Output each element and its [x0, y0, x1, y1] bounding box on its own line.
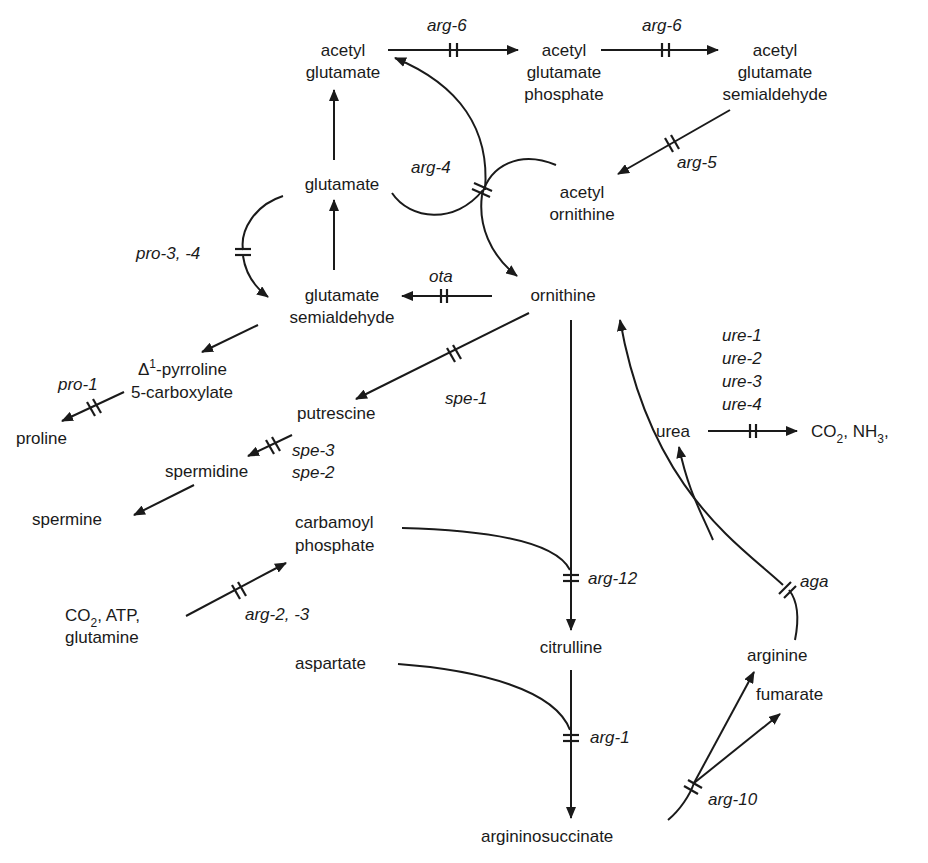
reaction-arg6-first	[388, 43, 518, 57]
reaction-pro1	[62, 392, 124, 421]
label-line: carbamoyl	[295, 513, 373, 532]
metabolite-fumarate: fumarate	[756, 685, 823, 704]
label-line: glutamate	[306, 63, 381, 82]
reaction-aga	[620, 320, 797, 640]
gene-arg6-second: arg-6	[642, 16, 682, 35]
gene-ota: ota	[429, 267, 453, 286]
gene-ure2: ure-2	[722, 349, 762, 368]
label-line: 5-carboxylate	[131, 383, 233, 402]
metabolite-spermidine: spermidine	[165, 462, 248, 481]
label-line: glutamate	[305, 286, 380, 305]
reaction-gsa-to-p5c	[202, 325, 258, 352]
reaction-arg6-second	[601, 43, 718, 57]
gene-ure1: ure-1	[722, 326, 762, 345]
pathway-diagram: acetyl glutamate acetyl glutamate phosph…	[0, 0, 928, 863]
gene-arg4: arg-4	[411, 158, 451, 177]
label-text: , NH	[843, 422, 877, 441]
metabolite-ornithine: ornithine	[530, 286, 595, 305]
delta-symbol: Δ	[138, 360, 149, 379]
metabolite-glutamate: glutamate	[305, 175, 380, 194]
label-line: glutamate	[738, 63, 813, 82]
gene-ure3: ure-3	[722, 372, 762, 391]
gene-arg10: arg-10	[708, 790, 758, 809]
gene-pro3-4: pro-3, -4	[135, 244, 200, 263]
reaction-ure	[708, 424, 797, 438]
metabolite-acetyl-glutamate-semialdehyde: acetyl glutamate semialdehyde	[723, 41, 828, 104]
metabolite-urea: urea	[656, 422, 691, 441]
label-line: Δ1-pyrroline	[138, 357, 227, 379]
label-line: phosphate	[295, 536, 374, 555]
gene-ure4: ure-4	[722, 395, 762, 414]
metabolite-putrescine: putrescine	[297, 404, 375, 423]
gene-arg5: arg-5	[677, 153, 717, 172]
label-line: phosphate	[524, 85, 603, 104]
label-text: CO	[65, 606, 91, 625]
reaction-ota	[402, 289, 492, 303]
label-line: acetyl	[542, 41, 586, 60]
label-text: -pyrroline	[156, 360, 227, 379]
metabolite-citrulline: citrulline	[540, 638, 602, 657]
metabolite-co2-nh3: CO2, NH3,	[811, 422, 889, 446]
gene-spe2: spe-2	[292, 463, 335, 482]
label-line: glutamine	[65, 628, 139, 647]
gene-arg6-first: arg-6	[427, 16, 467, 35]
gene-spe1: spe-1	[445, 389, 488, 408]
gene-aga: aga	[800, 572, 828, 591]
gene-pro1: pro-1	[57, 375, 98, 394]
label-text: , ATP,	[97, 606, 140, 625]
label-line: semialdehyde	[290, 308, 395, 327]
gene-spe3: spe-3	[292, 441, 335, 460]
metabolite-aspartate: aspartate	[295, 654, 366, 673]
label-line: glutamate	[527, 63, 602, 82]
label-line: CO2, ATP,	[65, 606, 140, 630]
reaction-arg1	[398, 664, 579, 818]
gene-arg2-3: arg-2, -3	[245, 605, 310, 624]
gene-ure-group: ure-1 ure-2 ure-3 ure-4	[722, 326, 762, 414]
metabolite-glutamate-semialdehyde: glutamate semialdehyde	[290, 286, 395, 327]
metabolite-arginine: arginine	[747, 646, 808, 665]
reaction-spe3-spe2	[248, 435, 292, 456]
gene-arg12: arg-12	[588, 569, 638, 588]
gene-arg1: arg-1	[590, 728, 630, 747]
metabolite-co2-atp-glutamine: CO2, ATP, glutamine	[65, 606, 140, 647]
reaction-spermidine-to-spermine	[134, 485, 194, 515]
label-line: semialdehyde	[723, 85, 828, 104]
metabolite-pyrroline-carboxylate: Δ1-pyrroline 5-carboxylate	[131, 357, 233, 402]
label-line: acetyl	[321, 41, 365, 60]
metabolite-carbamoyl-phosphate: carbamoyl phosphate	[295, 513, 374, 555]
metabolite-proline: proline	[16, 429, 67, 448]
label-line: acetyl	[753, 41, 797, 60]
metabolite-acetyl-ornithine: acetyl ornithine	[549, 183, 614, 224]
reaction-pro3-4	[235, 196, 283, 297]
reaction-arg12	[402, 320, 579, 630]
label-line: ornithine	[549, 205, 614, 224]
metabolite-argininosuccinate: argininosuccinate	[481, 827, 613, 846]
label-line: acetyl	[560, 183, 604, 202]
label-text: ,	[884, 422, 889, 441]
label-text: CO	[811, 422, 837, 441]
metabolite-spermine: spermine	[32, 510, 102, 529]
pathway-svg: acetyl glutamate acetyl glutamate phosph…	[0, 0, 928, 863]
metabolite-acetyl-glutamate: acetyl glutamate	[306, 41, 381, 82]
metabolite-acetyl-glutamate-phosphate: acetyl glutamate phosphate	[524, 41, 603, 104]
